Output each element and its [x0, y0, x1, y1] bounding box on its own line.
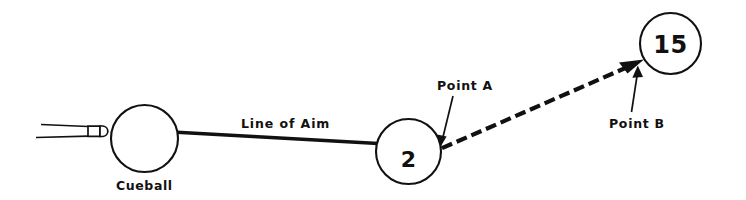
point-b-leader-line	[632, 76, 638, 112]
cueball-label: Cueball	[116, 178, 173, 193]
point-b-label: Point B	[609, 116, 665, 131]
cue-shaft-top-edge	[41, 125, 88, 127]
target-ball-15-number: 15	[653, 31, 687, 59]
cue-tip	[100, 126, 108, 137]
cue-stick	[36, 125, 108, 138]
point-a-leader-group	[437, 96, 453, 147]
point-b-leader-group	[632, 66, 644, 113]
point-a-leader-line	[443, 96, 454, 139]
diagram-canvas: Cueball Line of Aim Point A Point B 2 15	[0, 0, 746, 200]
deflection-line-group	[442, 60, 644, 149]
cueball-circle	[111, 105, 178, 172]
object-ball-2-number: 2	[401, 147, 416, 172]
cue-ferrule	[88, 126, 100, 136]
cue-shaft-bottom-edge	[36, 136, 88, 137]
point-a-label: Point A	[437, 78, 493, 93]
line-of-aim-label: Line of Aim	[241, 116, 330, 131]
billiards-diagram: Cueball Line of Aim Point A Point B 2 15	[0, 0, 746, 200]
